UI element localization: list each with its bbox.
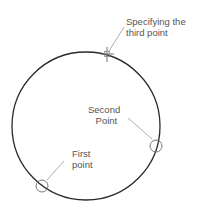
leader-line-second [128,118,152,139]
label-third-point: Specifying the third point [126,16,186,38]
label-third-line1: Specifying the [126,16,186,27]
label-second-line2: Point [88,115,120,126]
leader-line-third [109,27,124,51]
main-circle [12,52,160,200]
label-first-line2: point [72,159,93,170]
leader-line-first [47,161,64,180]
label-third-line2: third point [126,27,186,38]
label-first-line1: First [72,148,93,159]
label-second-point: Second Point [88,104,120,126]
label-first-point: First point [72,148,93,170]
crosshair-cursor-icon [100,47,114,62]
label-second-line1: Second [88,104,120,115]
